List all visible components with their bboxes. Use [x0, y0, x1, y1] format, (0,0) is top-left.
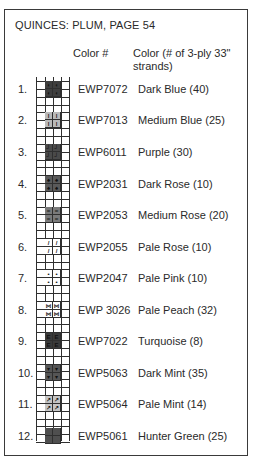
color-key-item: 1.EWP7072Dark Blue (40): [0, 81, 253, 97]
item-number: 2.: [18, 114, 27, 126]
column-header-color-name: Color (# of 3-ply 33" strands): [133, 47, 243, 72]
grid-horizontal-line: [36, 105, 70, 106]
color-code: EWP2031: [78, 178, 128, 190]
item-number: 4.: [18, 178, 27, 190]
color-code: EWP5061: [78, 430, 128, 442]
grid-horizontal-line: [36, 160, 70, 161]
color-code: EWP2055: [78, 241, 128, 253]
column-header-color-number: Color #: [73, 47, 108, 59]
color-code: EWP2047: [78, 272, 128, 284]
color-key-item: 12.EWP5061Hunter Green (25): [0, 428, 253, 444]
color-code: EWP6011: [78, 146, 127, 158]
grid-horizontal-line: [36, 419, 70, 420]
grid-horizontal-line: [36, 136, 70, 137]
item-number: 6.: [18, 241, 27, 253]
color-key-item: 10.EWP5063Dark Mint (35): [0, 365, 253, 381]
color-key-item: 8.EWP 3026Pale Peach (32): [0, 302, 253, 318]
item-number: 5.: [18, 209, 27, 221]
item-number: 8.: [18, 304, 27, 316]
grid-horizontal-line: [36, 167, 70, 168]
color-name: Hunter Green (25): [138, 430, 227, 442]
grid-horizontal-line: [36, 199, 70, 200]
item-number: 3.: [18, 146, 27, 158]
color-key-item: 4.EWP2031Dark Rose (10): [0, 176, 253, 192]
color-key-item: 2.EWP7013Medium Blue (25): [0, 112, 253, 128]
color-key-item: 3.EWP6011Purple (30): [0, 144, 253, 160]
grid-horizontal-line: [36, 97, 70, 98]
color-name: Dark Blue (40): [138, 83, 209, 95]
color-name: Pale Mint (14): [138, 398, 206, 410]
item-number: 10.: [18, 367, 33, 379]
stitch-chart-grid: ◖◖◖◖ǀǀǀǀ┘┘┘┘♠♠♠♠====////••••⋈⋈⋈⋈EEEE▾▾▾▾…: [36, 77, 70, 441]
color-code: EWP5064: [78, 398, 128, 410]
item-number: 1.: [18, 83, 27, 95]
color-name: Medium Blue (25): [138, 114, 225, 126]
color-name: Dark Mint (35): [138, 367, 208, 379]
grid-horizontal-line: [36, 128, 70, 129]
color-name: Turquoise (8): [138, 335, 203, 347]
color-name: Dark Rose (10): [138, 178, 213, 190]
item-number: 9.: [18, 335, 27, 347]
page-title: QUINCES: PLUM, PAGE 54: [15, 19, 155, 31]
color-code: EWP7072: [78, 83, 128, 95]
color-key-item: 7.EWP2047Pale Pink (10): [0, 270, 253, 286]
color-key-item: 9.EWP7022Turquoise (8): [0, 333, 253, 349]
color-code: EWP 3026: [78, 304, 130, 316]
grid-horizontal-line: [36, 356, 70, 357]
grid-horizontal-line: [36, 387, 70, 388]
grid-horizontal-line: [36, 230, 70, 231]
color-name: Medium Rose (20): [138, 209, 228, 221]
grid-horizontal-line: [36, 324, 70, 325]
color-code: EWP7022: [78, 335, 128, 347]
color-code: EWP7013: [78, 114, 128, 126]
grid-horizontal-line: [36, 293, 70, 294]
color-name: Pale Peach (32): [138, 304, 217, 316]
item-number: 12.: [18, 430, 33, 442]
color-key-item: 6.EWP2055Pale Rose (10): [0, 239, 253, 255]
color-name: Pale Pink (10): [138, 272, 207, 284]
item-number: 11.: [18, 398, 32, 410]
color-key-item: 11.EWP5064Pale Mint (14): [0, 396, 253, 412]
item-number: 7.: [18, 272, 27, 284]
color-name: Purple (30): [138, 146, 192, 158]
color-code: EWP5063: [78, 367, 128, 379]
color-name: Pale Rose (10): [138, 241, 211, 253]
color-key-item: 5.EWP2053Medium Rose (20): [0, 207, 253, 223]
grid-horizontal-line: [36, 262, 70, 263]
color-code: EWP2053: [78, 209, 128, 221]
grid-horizontal-line: [36, 426, 70, 427]
